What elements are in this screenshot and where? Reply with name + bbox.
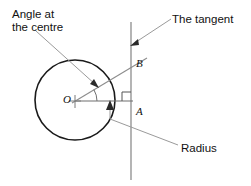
- radius-label: Radius: [181, 142, 217, 154]
- tangent-leader-line: [136, 19, 171, 42]
- point-o-label: O: [63, 93, 71, 105]
- point-a-label: A: [135, 105, 143, 117]
- geometry-diagram: Angle at the centre The tangent Radius O…: [0, 0, 251, 186]
- angle-at-centre-label-line2: the centre: [12, 21, 63, 33]
- angle-at-centre-label-line1: Angle at: [12, 8, 55, 20]
- radius-leader-line: [110, 119, 178, 145]
- point-b-label: B: [136, 57, 143, 69]
- centre-angle-arc: [94, 90, 97, 101]
- tangent-label: The tangent: [172, 13, 234, 25]
- diagram-canvas: Angle at the centre The tangent Radius O…: [0, 0, 251, 186]
- angle-leader-line: [36, 31, 96, 85]
- right-angle-marker: [122, 92, 131, 101]
